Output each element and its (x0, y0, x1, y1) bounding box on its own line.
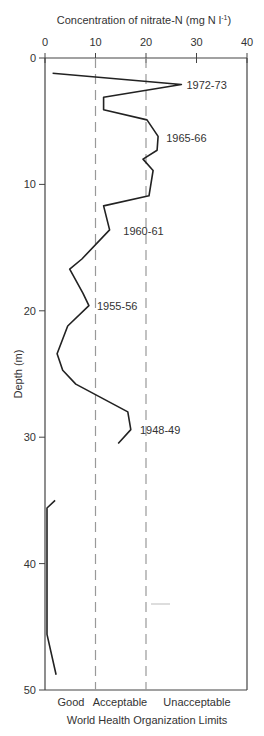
y-tick-label: 30 (24, 431, 36, 443)
x-axis-ticks: 010203040 (42, 36, 253, 63)
x-tick-label: 10 (89, 36, 101, 48)
x-tick-label: 20 (140, 36, 152, 48)
year-annotations: 1972-731965-661960-611955-561948-49 (97, 79, 227, 436)
y-axis-title: Depth (m) (12, 350, 24, 399)
year-label: 1960-61 (123, 225, 163, 237)
zone-label-good: Good (58, 696, 85, 708)
year-label: 1965-66 (166, 132, 206, 144)
y-axis-ticks: 01020304050 (24, 52, 45, 696)
who-limit-lines (96, 58, 147, 690)
year-label: 1948-49 (140, 424, 180, 436)
y-tick-label: 0 (30, 52, 36, 64)
zone-label-unacceptable: Unacceptable (163, 696, 230, 708)
nitrate-line (53, 73, 182, 443)
year-label: 1955-56 (97, 300, 137, 312)
year-label: 1972-73 (186, 79, 226, 91)
x-axis-title: Concentration of nitrate-N (mg N l-1) (57, 14, 231, 26)
zone-label-acceptable: Acceptable (93, 696, 147, 708)
chart-caption: World Health Organization Limits (67, 714, 228, 726)
y-tick-label: 20 (24, 305, 36, 317)
nitrate-line (47, 500, 56, 674)
y-tick-label: 50 (24, 684, 36, 696)
y-tick-label: 10 (24, 178, 36, 190)
nitrate-depth-chart: Concentration of nitrate-N (mg N l-1) 01… (0, 0, 264, 736)
x-tick-label: 40 (241, 36, 253, 48)
x-tick-label: 30 (190, 36, 202, 48)
y-tick-label: 40 (24, 558, 36, 570)
nitrate-series (47, 73, 181, 675)
x-tick-label: 0 (42, 36, 48, 48)
